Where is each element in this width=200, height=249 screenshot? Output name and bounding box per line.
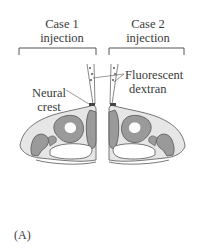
neural-crest-mark-right (110, 103, 116, 106)
pipette-right (110, 64, 118, 104)
pipette-left (87, 64, 95, 104)
left-half-section (20, 105, 96, 164)
case1-bracket (19, 48, 96, 55)
embryo-cross-section-diagram (0, 0, 200, 249)
neural-crest-mark-left (89, 103, 95, 106)
case2-bracket (109, 48, 184, 55)
right-half-section (109, 105, 185, 164)
